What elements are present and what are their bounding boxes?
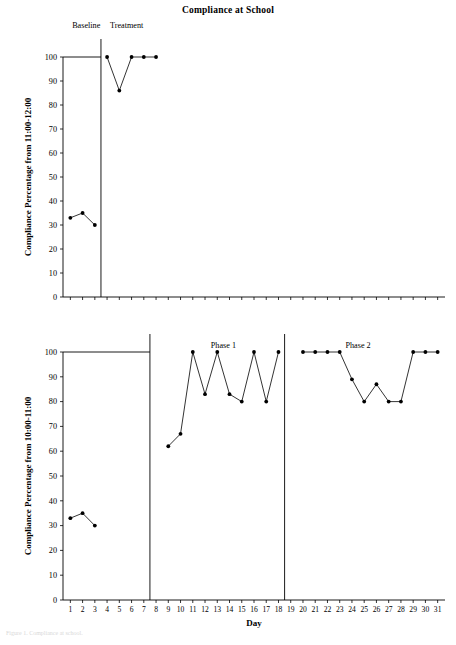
x-tick-label: 7 <box>142 605 146 614</box>
x-tick-label: 29 <box>409 605 417 614</box>
x-tick-label: 9 <box>166 605 170 614</box>
x-tick-label: 18 <box>275 605 283 614</box>
compliance-chart-svg: 0102030405060708090100BaselineTreatmentC… <box>0 0 456 645</box>
x-tick-label: 28 <box>397 605 405 614</box>
x-tick-label: 5 <box>117 605 121 614</box>
y-tick-label: 10 <box>49 269 57 278</box>
y-axis-title: Compliance Percentage from 10:00-11:00 <box>23 396 33 555</box>
x-tick-label: 27 <box>385 605 393 614</box>
data-point <box>203 392 207 396</box>
data-point <box>68 216 72 220</box>
data-point <box>81 511 85 515</box>
x-tick-label: 23 <box>336 605 344 614</box>
data-point <box>228 392 232 396</box>
data-point <box>166 444 170 448</box>
x-tick-label: 22 <box>324 605 332 614</box>
data-point <box>436 350 440 354</box>
y-tick-label: 80 <box>49 397 57 406</box>
data-point <box>215 350 219 354</box>
data-point <box>117 89 121 93</box>
x-tick-label: 1 <box>68 605 72 614</box>
y-tick-label: 100 <box>45 348 57 357</box>
data-point <box>93 524 97 528</box>
x-tick-label: 10 <box>177 605 185 614</box>
x-axis-title: Day <box>246 618 262 628</box>
x-tick-label: 15 <box>238 605 246 614</box>
data-point <box>142 55 146 59</box>
data-point <box>240 400 244 404</box>
y-tick-label: 90 <box>49 77 57 86</box>
phase-label: Baseline <box>72 21 101 30</box>
data-point <box>68 516 72 520</box>
panel-top-panel: 0102030405060708090100BaselineTreatmentC… <box>23 21 445 302</box>
x-tick-label: 12 <box>201 605 209 614</box>
y-tick-label: 40 <box>49 497 57 506</box>
y-tick-label: 80 <box>49 101 57 110</box>
series-line-phase-2 <box>303 352 438 402</box>
figure-container: Compliance at School 0102030405060708090… <box>0 0 456 645</box>
series-line-phase-1 <box>168 352 278 446</box>
x-tick-label: 21 <box>311 605 319 614</box>
y-tick-label: 30 <box>49 221 57 230</box>
x-tick-label: 25 <box>360 605 368 614</box>
data-point <box>301 350 305 354</box>
x-tick-label: 24 <box>348 605 356 614</box>
y-tick-label: 70 <box>49 422 57 431</box>
data-point <box>93 223 97 227</box>
data-point <box>399 400 403 404</box>
data-point <box>375 382 379 386</box>
x-tick-label: 13 <box>213 605 221 614</box>
x-tick-label: 30 <box>422 605 430 614</box>
x-tick-label: 19 <box>287 605 295 614</box>
phase-label: Phase 2 <box>345 341 370 350</box>
x-tick-label: 26 <box>373 605 381 614</box>
data-point <box>277 350 281 354</box>
series-line-treatment <box>107 57 156 91</box>
phase-label: Treatment <box>110 21 144 30</box>
y-tick-label: 70 <box>49 125 57 134</box>
data-point <box>154 55 158 59</box>
data-point <box>130 55 134 59</box>
y-tick-label: 60 <box>49 447 57 456</box>
y-tick-label: 0 <box>53 596 57 605</box>
x-tick-label: 17 <box>262 605 270 614</box>
panel-bottom-panel: 0102030405060708090100123456789101112131… <box>23 334 445 628</box>
data-point <box>81 211 85 215</box>
data-point <box>179 432 183 436</box>
data-point <box>338 350 342 354</box>
data-point <box>387 400 391 404</box>
x-tick-label: 4 <box>105 605 109 614</box>
data-point <box>326 350 330 354</box>
x-tick-label: 31 <box>434 605 442 614</box>
figure-footnote: Figure 1. Compliance at school. <box>6 630 83 636</box>
y-tick-label: 50 <box>49 472 57 481</box>
phase-label: Phase 1 <box>211 341 236 350</box>
y-tick-label: 50 <box>49 173 57 182</box>
x-tick-label: 8 <box>154 605 158 614</box>
x-tick-label: 3 <box>93 605 97 614</box>
y-axis-title: Compliance Percentage from 11:00-12:00 <box>23 97 33 256</box>
y-tick-label: 100 <box>45 53 57 62</box>
data-point <box>411 350 415 354</box>
x-tick-label: 16 <box>250 605 258 614</box>
x-tick-label: 20 <box>299 605 307 614</box>
data-point <box>264 400 268 404</box>
data-point <box>105 55 109 59</box>
y-tick-label: 40 <box>49 197 57 206</box>
x-tick-label: 11 <box>189 605 197 614</box>
y-tick-label: 20 <box>49 245 57 254</box>
y-tick-label: 20 <box>49 546 57 555</box>
y-tick-label: 10 <box>49 571 57 580</box>
data-point <box>252 350 256 354</box>
y-tick-label: 0 <box>53 293 57 302</box>
data-point <box>313 350 317 354</box>
y-tick-label: 30 <box>49 521 57 530</box>
data-point <box>350 377 354 381</box>
data-point <box>362 400 366 404</box>
x-tick-label: 14 <box>226 605 234 614</box>
y-tick-label: 90 <box>49 373 57 382</box>
y-tick-label: 60 <box>49 149 57 158</box>
x-tick-label: 2 <box>81 605 85 614</box>
data-point <box>191 350 195 354</box>
data-point <box>424 350 428 354</box>
